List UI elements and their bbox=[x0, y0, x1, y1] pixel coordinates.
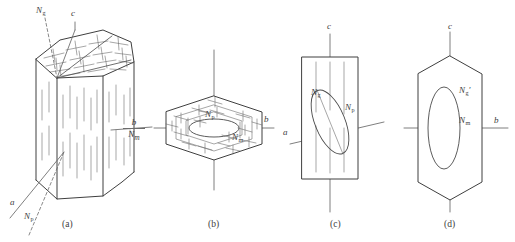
prism-bottom-outline bbox=[36, 172, 134, 199]
panel-a-axis-Np bbox=[29, 152, 64, 235]
panel-b-drawing bbox=[152, 0, 297, 242]
panel-d-caption: (d) bbox=[444, 219, 455, 229]
panel-a-label-Np: Np bbox=[24, 212, 34, 221]
panel-b-label-Nm: Nm bbox=[232, 133, 243, 142]
panel-b-label-Np: Np bbox=[205, 110, 215, 119]
panel-d-label-c: c bbox=[448, 22, 452, 31]
prism-face-striations bbox=[42, 82, 130, 180]
panel-c-label-a: a bbox=[283, 128, 288, 137]
panel-b-caption: (b) bbox=[208, 219, 219, 229]
panel-a-label-Ng: Ng bbox=[36, 6, 46, 15]
panel-a-label-Nm: Nm bbox=[123, 130, 145, 142]
panel-c-drawing bbox=[290, 0, 415, 242]
panel-b-label-b: b bbox=[264, 115, 269, 124]
panel-b-outer-hexagon bbox=[166, 96, 262, 160]
panel-c-caption: (c) bbox=[330, 219, 341, 229]
panel-d-label-Ng-prime: Ng′ bbox=[459, 86, 471, 95]
crystal-indicatrix-figure: Ng c b Nm a Np (a) bbox=[0, 0, 515, 242]
panel-d-label-Nm: Nm bbox=[459, 116, 470, 125]
panel-d-label-b: b bbox=[494, 116, 499, 125]
panel-a-label-a: a bbox=[10, 198, 15, 207]
panel-c-label-Np: Np bbox=[345, 103, 355, 112]
panel-a-axis-a bbox=[10, 152, 64, 218]
panel-a-label-c: c bbox=[71, 9, 75, 18]
panel-a-caption: (a) bbox=[62, 219, 73, 229]
panel-a-label-b: b bbox=[123, 118, 145, 127]
panel-c-label-Ng: Ng bbox=[311, 88, 321, 97]
panel-a-label-b-over-Nm: b Nm bbox=[123, 118, 145, 142]
panel-c-label-c: c bbox=[327, 22, 331, 31]
